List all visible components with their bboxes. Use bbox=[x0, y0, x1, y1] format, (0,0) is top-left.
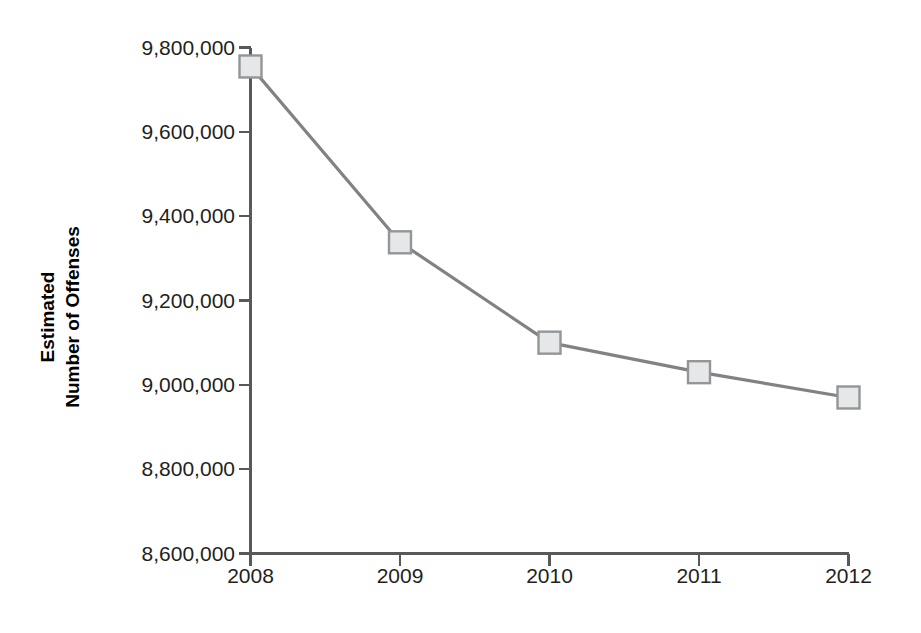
data-point-marker bbox=[539, 332, 561, 354]
axis-layer bbox=[239, 48, 849, 566]
data-point-marker bbox=[838, 386, 860, 408]
data-point-marker bbox=[688, 361, 710, 383]
line-chart: Estimated Number of Offenses 9,800,0009,… bbox=[0, 0, 921, 633]
data-point-marker bbox=[389, 231, 411, 253]
data-point-layer bbox=[240, 55, 860, 408]
plot-area bbox=[0, 0, 921, 633]
data-point-marker bbox=[240, 55, 262, 77]
